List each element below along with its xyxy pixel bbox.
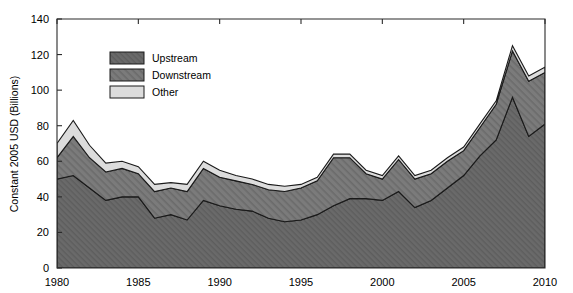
x-tick-label: 2005	[451, 276, 475, 288]
x-tick-label: 2000	[370, 276, 394, 288]
y-tick-label: 80	[37, 120, 49, 132]
x-tick-label: 1990	[207, 276, 231, 288]
x-tick-label: 1980	[45, 276, 69, 288]
x-tick-label: 1995	[289, 276, 313, 288]
legend-label-other: Other	[152, 86, 179, 98]
legend-label-upstream: Upstream	[152, 52, 198, 64]
y-tick-label: 40	[37, 191, 49, 203]
legend-label-downstream: Downstream	[152, 69, 211, 81]
y-tick-label: 120	[31, 49, 49, 61]
y-tick-label: 60	[37, 155, 49, 167]
stacked-area-chart: 020406080100120140 198019851990199520002…	[0, 0, 573, 293]
x-tick-label: 1985	[126, 276, 150, 288]
y-tick-label: 0	[43, 262, 49, 274]
legend-swatch-downstream	[110, 69, 144, 81]
y-tick-label: 100	[31, 84, 49, 96]
y-tick-label: 20	[37, 226, 49, 238]
y-axis-label: Constant 2005 USD (Billions)	[8, 76, 20, 213]
legend-swatch-other	[110, 86, 144, 98]
y-tick-label: 140	[31, 13, 49, 25]
legend-swatch-upstream	[110, 52, 144, 64]
x-tick-label: 2010	[533, 276, 557, 288]
chart-figure: 020406080100120140 198019851990199520002…	[0, 0, 573, 293]
